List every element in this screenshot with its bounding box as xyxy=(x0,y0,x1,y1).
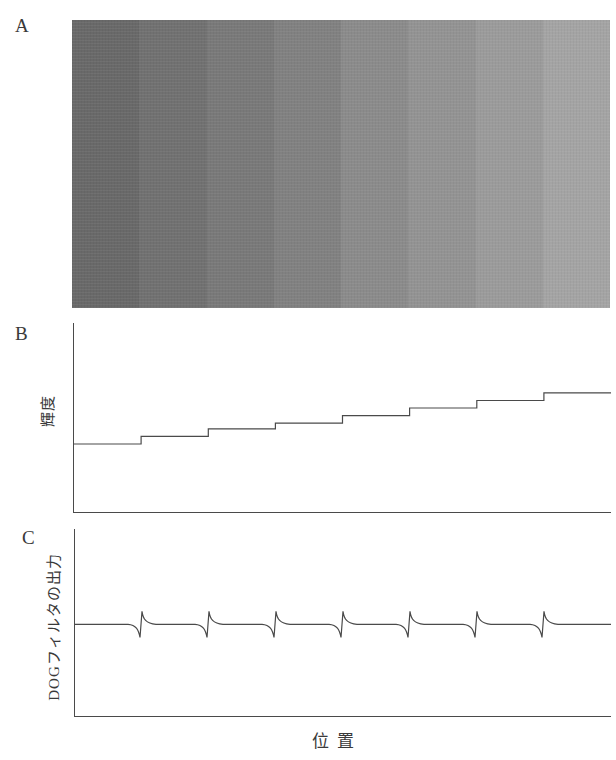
gray-staircase-image xyxy=(72,20,610,308)
gray-band-2 xyxy=(139,20,206,308)
panel-b-label: B xyxy=(15,324,28,343)
gray-band-7 xyxy=(476,20,543,308)
gray-band-6 xyxy=(408,20,475,308)
gray-band-8 xyxy=(543,20,610,308)
dog-output-axis-label: DOGフィルタの出力 xyxy=(42,553,63,701)
gray-band-3 xyxy=(207,20,274,308)
panel-a-label: A xyxy=(15,16,29,35)
dog-output-plot xyxy=(74,529,611,717)
gray-band-1 xyxy=(72,20,139,308)
gray-band-5 xyxy=(341,20,408,308)
dog-output-curve xyxy=(75,611,611,637)
position-axis-label: 位 置 xyxy=(312,727,356,752)
panel-c-label: C xyxy=(22,528,35,547)
gray-band-4 xyxy=(274,20,341,308)
luminance-plot xyxy=(73,323,611,513)
luminance-staircase-curve xyxy=(74,393,611,444)
dog-output-plot-canvas xyxy=(75,529,611,716)
luminance-axis-label: 輝度 xyxy=(36,395,57,427)
luminance-plot-canvas xyxy=(74,323,611,512)
figure-chevreul-dog: A B 輝度 C DOGフィルタの出力 位 置 xyxy=(0,0,616,760)
